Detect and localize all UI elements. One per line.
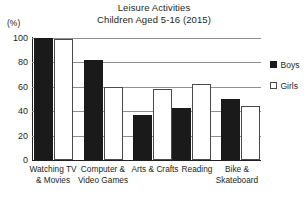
- chart-title-block: Leisure Activities Children Aged 5-16 (2…: [0, 2, 308, 26]
- bar-boys-reading[interactable]: [172, 108, 191, 160]
- chart-subtitle: Children Aged 5-16 (2015): [0, 14, 308, 26]
- legend-item-boys[interactable]: Boys: [270, 60, 299, 69]
- y-tick-label-20: 20: [2, 131, 28, 141]
- legend-item-girls[interactable]: Girls: [270, 81, 299, 90]
- bar-boys-arts-and-crafts[interactable]: [133, 115, 152, 160]
- x-axis-line: [32, 160, 261, 161]
- plot-area: [32, 38, 261, 160]
- x-category-label-bike-and-skateboard: Bike & Skateboard: [209, 164, 265, 185]
- y-tick-label-40: 40: [2, 106, 28, 116]
- chart-title: Leisure Activities: [0, 2, 308, 14]
- legend-label-boys: Boys: [281, 60, 300, 70]
- bar-girls-arts-and-crafts[interactable]: [153, 89, 172, 160]
- bar-boys-watching-tv-and-movies[interactable]: [34, 38, 53, 160]
- bar-girls-reading[interactable]: [192, 84, 211, 160]
- bar-girls-bike-and-skateboard[interactable]: [241, 106, 260, 160]
- legend: Boys Girls: [270, 60, 299, 102]
- y-tick-label-100: 100: [2, 33, 28, 43]
- cat-line-1: Bike &: [209, 164, 265, 175]
- bar-girls-watching-tv-and-movies[interactable]: [54, 39, 73, 160]
- bar-boys-bike-and-skateboard[interactable]: [221, 99, 240, 160]
- cat-line-2: Video Games: [69, 175, 137, 186]
- y-tick-label-80: 80: [2, 57, 28, 67]
- y-tick-label-60: 60: [2, 82, 28, 92]
- hollow-square-icon: [270, 82, 277, 89]
- legend-label-girls: Girls: [281, 81, 298, 91]
- bar-girls-computer-and-video-games[interactable]: [104, 87, 123, 160]
- cat-line-2: Skateboard: [209, 175, 265, 186]
- bar-boys-computer-and-video-games[interactable]: [84, 60, 103, 160]
- y-axis-unit-label: (%): [7, 18, 20, 28]
- filled-square-icon: [270, 61, 277, 68]
- bar-chart: Leisure Activities Children Aged 5-16 (2…: [0, 0, 308, 198]
